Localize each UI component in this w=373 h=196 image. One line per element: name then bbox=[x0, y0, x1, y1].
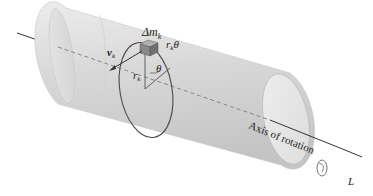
mass-element-block bbox=[140, 40, 158, 56]
axis-line-end bbox=[345, 150, 362, 157]
arc-length-label: rkθ bbox=[166, 38, 179, 52]
cylinder bbox=[35, 2, 317, 169]
angle-label: θ bbox=[156, 62, 162, 74]
axis-name-label: L bbox=[347, 175, 354, 187]
mass-label: Δmk bbox=[141, 25, 162, 41]
rotating-cylinder-diagram: Δmk rkθ vk rk θ Axis of rotation L bbox=[0, 0, 373, 196]
rotation-direction-icon bbox=[317, 160, 327, 176]
